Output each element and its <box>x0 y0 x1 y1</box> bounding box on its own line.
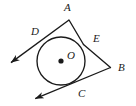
point-label-b: B <box>118 62 125 73</box>
geometry-figure: A B C D E O <box>0 0 136 106</box>
ray-b-through-c <box>35 68 110 99</box>
segment-a-to-e <box>69 20 84 45</box>
point-label-e: E <box>93 33 100 44</box>
ray-a-through-d <box>11 20 69 63</box>
segment-e-to-b <box>84 45 111 68</box>
center-point-dot <box>58 58 63 63</box>
point-label-a: A <box>64 2 71 13</box>
center-label-o: O <box>67 50 75 61</box>
point-label-c: C <box>78 88 85 99</box>
point-label-d: D <box>31 26 39 37</box>
